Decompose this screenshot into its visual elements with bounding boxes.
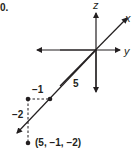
x-axis-label: x [125,13,131,24]
problem-part-label: 0. [0,3,8,13]
intermediate-point [26,97,31,102]
x-axis-positive-toward-viewer [17,50,96,133]
z-offset-label: −2 [12,110,23,120]
plotted-point [26,141,31,146]
axes-graphic [0,0,132,148]
y-offset-label: −1 [32,85,43,95]
x-axis-point [48,97,53,102]
y-axis-label: y [124,46,130,57]
3d-coordinate-diagram: 0. z x y 5 −1 −2 (5, −1, −2) [0,0,132,148]
z-axis-label: z [93,0,99,11]
x-distance-label: 5 [73,79,79,89]
point-coordinates-label: (5, −1, −2) [35,138,81,148]
